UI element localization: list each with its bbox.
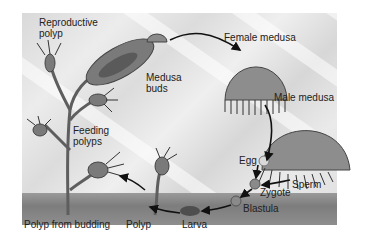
label-egg: Egg [239,155,257,166]
label-reproductive-polyp-line1: Reproductive [39,17,98,28]
label-reproductive-polyp-line2: polyp [39,28,63,39]
label-zygote: Zygote [260,187,291,198]
zygote [250,179,260,189]
label-feeding-polyps-line2: polyps [73,136,102,147]
label-polyp: Polyp [126,219,151,230]
label-polyp-from-budding: Polyp from budding [24,219,110,230]
label-blastula: Blastula [243,203,279,214]
larva [180,206,200,216]
young-medusa [147,34,167,42]
male-medusa [262,131,350,170]
label-feeding-polyps-line1: Feeding [73,125,109,136]
label-medusa-buds-line1: Medusa [146,72,182,83]
label-male-medusa: Male medusa [274,92,334,103]
blastula [231,196,241,206]
label-sperm: Sperm [292,179,321,190]
label-larva: Larva [182,219,207,230]
label-medusa-buds-line2: buds [146,83,168,94]
label-female-medusa: Female medusa [224,32,296,43]
